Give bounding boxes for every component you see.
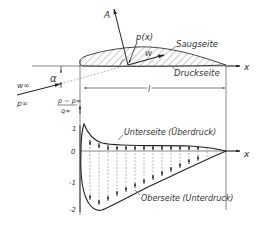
alpha-label: α bbox=[50, 73, 57, 84]
freestream-velocity-label: w∞ bbox=[17, 81, 29, 90]
tick-1: 1 bbox=[72, 125, 76, 133]
upper-curve-leader bbox=[135, 190, 140, 195]
pressure-chart: p − p∞ q∞ x 1 0 -1 -2 bbox=[57, 97, 250, 214]
airfoil-profile bbox=[80, 47, 226, 67]
x-axis-label-top: x bbox=[243, 62, 250, 72]
airfoil-diagram: x Saugseite Druckseite A p(x) W w∞ p∞ α bbox=[0, 0, 259, 228]
chord-length-label: l bbox=[148, 85, 151, 94]
y-axis-label-denominator: q∞ bbox=[61, 107, 71, 115]
y-axis-label-numerator: p − p∞ bbox=[57, 97, 81, 105]
freestream-dashed bbox=[60, 65, 128, 84]
resultant-label: W bbox=[145, 50, 153, 58]
tick-0: 0 bbox=[71, 148, 76, 156]
pressure-side-label: Druckseite bbox=[174, 68, 220, 78]
lower-curve-leader bbox=[118, 135, 123, 140]
upper-side-label: Oberseite (Unterdruck) bbox=[141, 194, 233, 203]
suction-side-label: Saugseite bbox=[176, 39, 218, 49]
freestream-pressure-label: p∞ bbox=[16, 99, 28, 108]
pressure-label: p(x) bbox=[135, 32, 153, 42]
tick-minus-1: -1 bbox=[69, 179, 76, 187]
lower-side-label: Unterseite (Überdruck) bbox=[124, 127, 216, 137]
airfoil-section: x Saugseite Druckseite A p(x) W w∞ p∞ α bbox=[16, 9, 250, 215]
tick-minus-2: -2 bbox=[69, 206, 77, 214]
lift-label: A bbox=[103, 10, 110, 20]
x-axis-label-bottom: x bbox=[243, 149, 250, 159]
